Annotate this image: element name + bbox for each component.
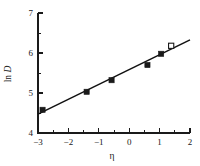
x-tick-label: −1: [94, 137, 104, 147]
x-tick-label: −2: [64, 137, 74, 147]
ticks-group: [38, 13, 190, 133]
x-tick-label: 2: [188, 137, 193, 147]
axis-spines: [38, 13, 190, 133]
y-tick-label: 7: [29, 8, 34, 18]
x-tick-label: 0: [127, 137, 132, 147]
data-point-marker: [145, 62, 150, 67]
scatter-plot-svg: 4567−3−2−1012 η ln D: [0, 0, 200, 166]
y-tick-label: 6: [29, 48, 34, 58]
x-tick-label: −3: [33, 137, 43, 147]
data-point-marker: [159, 51, 164, 56]
chart-figure: 4567−3−2−1012 η ln D: [0, 0, 200, 166]
y-axis-title: ln D: [3, 66, 13, 83]
data-point-marker: [169, 43, 174, 48]
data-point-marker: [109, 78, 114, 83]
data-points-group: [40, 43, 174, 112]
x-axis-title: η: [110, 151, 115, 161]
x-tick-label: 1: [157, 137, 162, 147]
data-point-marker: [84, 89, 89, 94]
y-tick-label: 5: [29, 88, 34, 98]
fit-line: [38, 40, 190, 114]
regression-line: [38, 40, 190, 114]
axes-group: [38, 13, 190, 133]
data-point-marker: [40, 107, 45, 112]
